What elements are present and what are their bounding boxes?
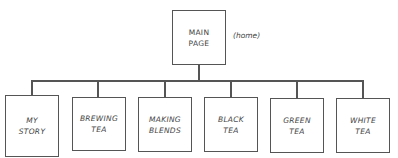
node-making-blends: MAKING BLENDS bbox=[138, 97, 192, 152]
node-label: WHITE TEA bbox=[350, 115, 376, 137]
node-label: GREEN TEA bbox=[283, 115, 311, 137]
child-connector bbox=[296, 80, 298, 98]
main-page-label: MAIN PAGE bbox=[189, 27, 210, 49]
node-white-tea: WHITE TEA bbox=[336, 98, 390, 153]
home-note: (home) bbox=[233, 31, 260, 40]
node-label: BLACK TEA bbox=[218, 114, 244, 136]
node-label: BREWING TEA bbox=[80, 113, 118, 135]
main-page-node: MAIN PAGE bbox=[172, 10, 226, 65]
child-connector bbox=[164, 80, 166, 97]
child-connector bbox=[97, 80, 99, 97]
root-connector bbox=[198, 64, 200, 81]
node-my-story: MY STORY bbox=[5, 95, 59, 157]
node-label: MY STORY bbox=[19, 115, 46, 137]
horizontal-connector bbox=[31, 80, 363, 82]
node-brewing-tea: BREWING TEA bbox=[72, 97, 126, 151]
node-black-tea: BLACK TEA bbox=[204, 97, 258, 152]
child-connector bbox=[362, 80, 364, 98]
node-green-tea: GREEN TEA bbox=[270, 98, 324, 153]
child-connector bbox=[31, 80, 33, 96]
child-connector bbox=[230, 80, 232, 97]
node-label: MAKING BLENDS bbox=[149, 114, 181, 136]
